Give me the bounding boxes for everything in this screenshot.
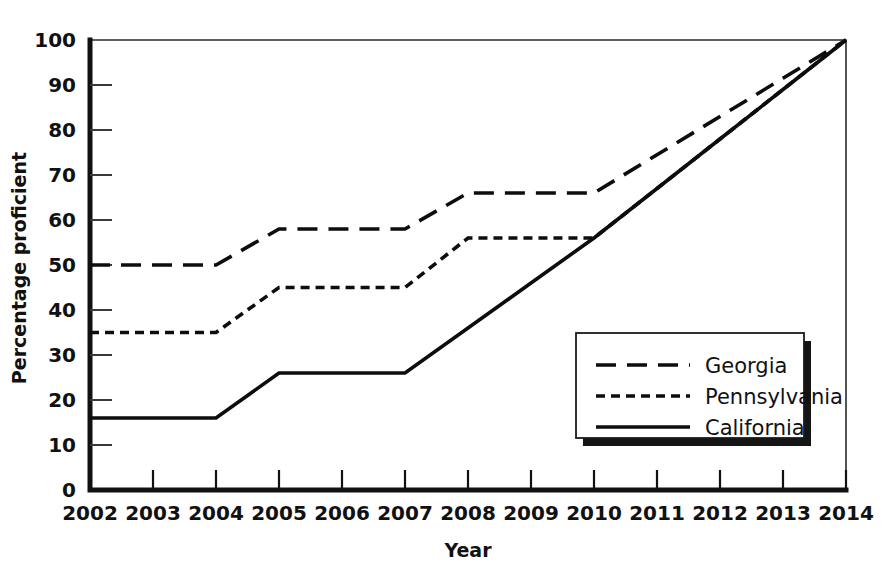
x-tick-label: 2012 — [692, 501, 748, 525]
y-tick-label: 10 — [48, 433, 76, 457]
series-line-pennsylvania — [90, 40, 846, 333]
y-tick-label: 50 — [48, 253, 76, 277]
series-line-georgia — [90, 40, 846, 265]
y-tick-label: 0 — [62, 478, 76, 502]
x-tick-label: 2007 — [377, 501, 433, 525]
y-tick-label: 80 — [48, 118, 76, 142]
x-tick-label: 2004 — [188, 501, 244, 525]
x-tick-label: 2010 — [566, 501, 622, 525]
x-axis-ticks — [153, 470, 846, 490]
chart-container: 0102030405060708090100 20022003200420052… — [0, 0, 889, 572]
y-axis-title: Percentage proficient — [8, 152, 30, 384]
legend-label-california: California — [705, 416, 805, 440]
y-axis-tick-labels: 0102030405060708090100 — [34, 28, 76, 502]
y-tick-label: 60 — [48, 208, 76, 232]
y-tick-label: 100 — [34, 28, 76, 52]
x-axis-title: Year — [443, 539, 492, 561]
legend-label-georgia: Georgia — [705, 354, 787, 378]
x-tick-label: 2005 — [251, 501, 307, 525]
x-tick-label: 2008 — [440, 501, 496, 525]
x-tick-label: 2014 — [818, 501, 874, 525]
y-tick-label: 40 — [48, 298, 76, 322]
x-tick-label: 2011 — [629, 501, 685, 525]
x-tick-label: 2009 — [503, 501, 559, 525]
x-axis-tick-labels: 2002200320042005200620072008200920102011… — [62, 501, 874, 525]
x-tick-label: 2003 — [125, 501, 181, 525]
line-chart: 0102030405060708090100 20022003200420052… — [0, 0, 889, 572]
legend: GeorgiaPennsylvaniaCalifornia — [576, 333, 843, 446]
y-tick-label: 20 — [48, 388, 76, 412]
x-tick-label: 2013 — [755, 501, 811, 525]
y-tick-label: 30 — [48, 343, 76, 367]
legend-label-pennsylvania: Pennsylvania — [705, 385, 843, 409]
x-tick-label: 2002 — [62, 501, 118, 525]
y-tick-label: 70 — [48, 163, 76, 187]
x-tick-label: 2006 — [314, 501, 370, 525]
y-tick-label: 90 — [48, 73, 76, 97]
